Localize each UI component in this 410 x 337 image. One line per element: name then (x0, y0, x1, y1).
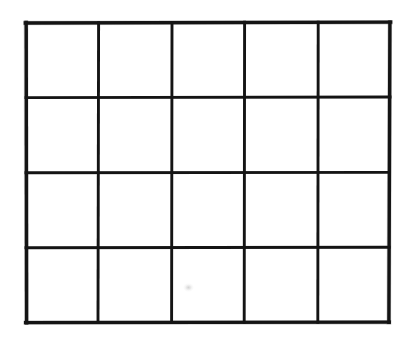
grid-cell-r3c3[interactable] (175, 175, 242, 246)
grid-cell-r3c5[interactable] (321, 175, 387, 246)
grid-cell-r4c3[interactable] (175, 250, 242, 321)
grid-border-right (389, 22, 390, 322)
grid-cell-r2c3[interactable] (175, 100, 242, 171)
grid-border-top (25, 22, 390, 23)
grid-cell-r2c2[interactable] (101, 100, 170, 171)
page-canvas: Blank grid table Hand-drawn blank table … (0, 0, 410, 337)
grid-cell-r2c1[interactable] (28, 100, 97, 171)
grid-cell-r2c5[interactable] (321, 100, 387, 171)
grid-column-divider-1 (98, 23, 99, 323)
grid-cell-r1c3[interactable] (175, 25, 242, 96)
grid-cell-r3c2[interactable] (101, 175, 170, 246)
grid-row-divider-1 (26, 97, 390, 98)
grid-cell-r3c1[interactable] (28, 175, 97, 246)
grid-border-bottom (26, 322, 390, 323)
grid-cell-r4c5[interactable] (321, 250, 387, 321)
grid-cell-r1c1[interactable] (28, 25, 97, 96)
grid-cell-r3c4[interactable] (247, 175, 315, 246)
grid-cell-r4c2[interactable] (101, 250, 170, 321)
grid-row-divider-3 (26, 247, 389, 248)
grid-cell-r4c4[interactable] (247, 250, 315, 321)
grid-cell-r4c1[interactable] (28, 250, 97, 321)
blank-grid-table (0, 0, 410, 337)
grid-cell-r1c5[interactable] (321, 25, 387, 96)
grid-cell-r1c4[interactable] (247, 25, 315, 96)
grid-cell-r1c2[interactable] (101, 25, 170, 96)
grid-cell-r2c4[interactable] (247, 100, 315, 171)
